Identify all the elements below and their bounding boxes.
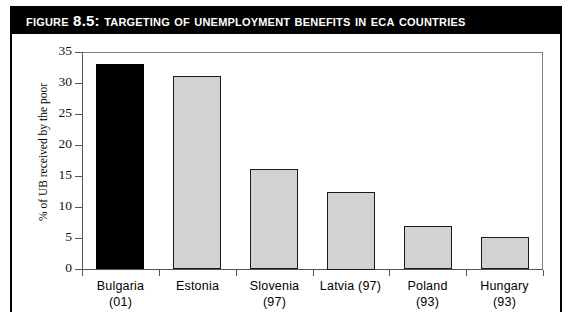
y-axis-tick-label: 10 [48, 201, 72, 211]
y-axis-tick [75, 269, 82, 270]
y-axis-tick [75, 52, 82, 53]
bar-4 [327, 192, 375, 270]
x-axis-tick [313, 270, 314, 276]
x-axis-category-label: Latvia (97) [312, 278, 389, 294]
x-axis-tick [236, 270, 237, 276]
x-axis-category-line: Latvia (97) [312, 278, 389, 294]
x-axis-category-line: (01) [82, 294, 159, 310]
x-axis-category-line: Estonia [159, 278, 236, 294]
chart-plot-area: % of UB received by the poor 05101520253… [12, 34, 560, 314]
y-axis-tick [75, 114, 82, 115]
y-axis-line [82, 52, 83, 270]
y-axis-tick-label: 15 [48, 170, 72, 180]
bar-2 [173, 76, 221, 269]
x-axis-tick [159, 270, 160, 276]
x-axis-tick [466, 270, 467, 276]
x-axis-category-line: Bulgaria [82, 278, 159, 294]
x-axis-category-label: Estonia [159, 278, 236, 294]
y-axis-tick [75, 83, 82, 84]
y-axis-tick-label: 30 [48, 77, 72, 87]
y-axis-tick [75, 145, 82, 146]
x-axis-category-label: Poland(93) [389, 278, 466, 310]
x-axis-category-line: Hungary [466, 278, 543, 294]
figure-root: Figure 8.5: Targeting of Unemployment Be… [0, 0, 574, 331]
x-axis-category-label: Slovenia(97) [236, 278, 313, 310]
y-axis-tick [75, 176, 82, 177]
x-axis-category-line: Poland [389, 278, 466, 294]
x-axis-category-line: Slovenia [236, 278, 313, 294]
y-axis-tick-label: 20 [48, 139, 72, 149]
figure-title: Figure 8.5: Targeting of Unemployment Be… [26, 12, 465, 29]
y-axis-tick [75, 238, 82, 239]
y-axis-tick-label: 25 [48, 108, 72, 118]
x-axis-category-label: Hungary(93) [466, 278, 543, 310]
y-axis-tick-label: 0 [48, 263, 72, 273]
y-axis-tick [75, 207, 82, 208]
bar-5 [404, 226, 452, 269]
x-axis-tick [82, 270, 83, 276]
x-axis-category-line: (97) [236, 294, 313, 310]
y-axis-tick-label: 35 [48, 46, 72, 56]
figure-box: Figure 8.5: Targeting of Unemployment Be… [10, 6, 562, 312]
bar-1 [96, 64, 144, 269]
x-axis-category-line: (93) [466, 294, 543, 310]
x-axis-category-line: (93) [389, 294, 466, 310]
x-axis-tick [543, 270, 544, 276]
bar-6 [481, 237, 529, 269]
x-axis-category-label: Bulgaria(01) [82, 278, 159, 310]
y-axis-tick-label: 5 [48, 232, 72, 242]
bar-3 [250, 169, 298, 269]
figure-title-bar: Figure 8.5: Targeting of Unemployment Be… [12, 8, 560, 34]
x-axis-tick [389, 270, 390, 276]
plot-frame [82, 52, 543, 270]
